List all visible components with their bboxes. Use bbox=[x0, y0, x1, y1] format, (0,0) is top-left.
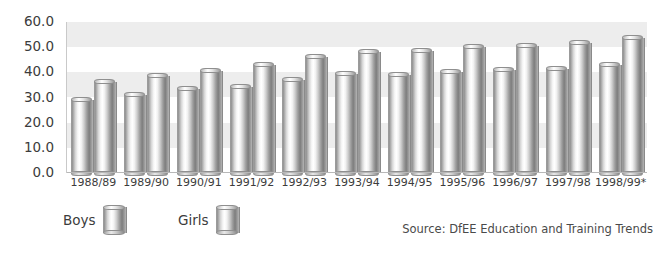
bar-boys bbox=[388, 75, 411, 173]
cylinder-top-ellipse bbox=[622, 35, 643, 40]
cylinder-top-ellipse bbox=[230, 84, 251, 89]
x-tick-label: 1991/92 bbox=[225, 176, 278, 190]
bar-girls bbox=[200, 71, 223, 173]
bar-boys bbox=[546, 69, 569, 173]
bar-boys bbox=[282, 80, 305, 173]
bar-group bbox=[278, 22, 331, 173]
y-tick-label: 0.0 bbox=[33, 166, 54, 180]
cylinder-top-ellipse bbox=[388, 72, 409, 77]
bar-boys bbox=[177, 89, 200, 173]
cylinder-top-ellipse bbox=[71, 97, 92, 102]
x-tick-label: 1992/93 bbox=[278, 176, 331, 190]
bar-girls bbox=[463, 47, 486, 173]
cylinder-swatch-boys bbox=[103, 207, 127, 233]
plot-area bbox=[67, 22, 647, 173]
bar-girls bbox=[569, 43, 592, 173]
cylinder-top-ellipse bbox=[599, 62, 620, 67]
bar-group bbox=[383, 22, 436, 173]
x-tick-label: 1988/89 bbox=[67, 176, 120, 190]
cylinder-top-ellipse bbox=[569, 40, 590, 45]
bar-chart-figure: 60.050.040.030.020.010.00.0 1988/891989/… bbox=[0, 0, 667, 257]
cylinder-top-ellipse bbox=[177, 86, 198, 91]
bar-girls bbox=[411, 51, 434, 173]
bar-girls bbox=[94, 82, 117, 173]
cylinder-top-ellipse bbox=[305, 54, 326, 59]
cylinder-swatch-girls bbox=[216, 207, 240, 233]
y-tick-label: 10.0 bbox=[24, 141, 54, 155]
cylinder-top-ellipse bbox=[124, 92, 145, 97]
bar-group bbox=[331, 22, 384, 173]
cylinder-top-ellipse bbox=[216, 205, 238, 210]
legend-label: Girls bbox=[178, 212, 209, 228]
bar-group bbox=[172, 22, 225, 173]
x-axis-tick-labels: 1988/891989/901990/911991/921992/931993/… bbox=[67, 176, 647, 194]
y-tick-label: 30.0 bbox=[24, 91, 54, 105]
bar-boys bbox=[124, 95, 147, 173]
y-tick-label: 40.0 bbox=[24, 65, 54, 79]
bar-boys bbox=[71, 100, 94, 173]
bar-group bbox=[542, 22, 595, 173]
bar-group bbox=[489, 22, 542, 173]
bar-boys bbox=[230, 87, 253, 173]
bar-boys bbox=[599, 65, 622, 173]
bar-boys bbox=[493, 70, 516, 173]
cylinder-top-ellipse bbox=[358, 49, 379, 54]
bar-girls bbox=[622, 38, 645, 173]
bar-boys bbox=[335, 74, 358, 173]
y-axis: 60.050.040.030.020.010.00.0 bbox=[0, 0, 58, 180]
cylinder-top-ellipse bbox=[516, 43, 537, 48]
x-tick-label: 1989/90 bbox=[120, 176, 173, 190]
cylinder-top-ellipse bbox=[253, 62, 274, 67]
bar-group bbox=[67, 22, 120, 173]
x-tick-label: 1996/97 bbox=[489, 176, 542, 190]
x-tick-label: 1997/98 bbox=[542, 176, 595, 190]
y-tick-label: 20.0 bbox=[24, 116, 54, 130]
cylinder-top-ellipse bbox=[546, 66, 567, 71]
bar-group bbox=[594, 22, 647, 173]
cylinder-top-ellipse bbox=[147, 73, 168, 78]
cylinder-top-ellipse bbox=[200, 68, 221, 73]
cylinder-top-ellipse bbox=[335, 71, 356, 76]
y-axis-line bbox=[66, 22, 67, 173]
y-tick-label: 60.0 bbox=[24, 15, 54, 29]
x-tick-label: 1993/94 bbox=[331, 176, 384, 190]
bar-group bbox=[225, 22, 278, 173]
bar-girls bbox=[147, 76, 170, 173]
bar-group bbox=[120, 22, 173, 173]
x-tick-label: 1990/91 bbox=[172, 176, 225, 190]
x-tick-label: 1998/99* bbox=[594, 176, 647, 190]
source-note: Source: DfEE Education and Training Tren… bbox=[402, 222, 653, 236]
cylinder-top-ellipse bbox=[94, 79, 115, 84]
x-tick-label: 1995/96 bbox=[436, 176, 489, 190]
cylinder-top-ellipse bbox=[411, 48, 432, 53]
x-axis-baseline bbox=[67, 172, 647, 173]
legend-label: Boys bbox=[63, 212, 96, 228]
bar-group bbox=[436, 22, 489, 173]
cylinder-bottom-ellipse bbox=[216, 230, 238, 235]
cylinder-top-ellipse bbox=[463, 44, 484, 49]
bar-girls bbox=[358, 52, 381, 173]
bar-boys bbox=[440, 72, 463, 173]
x-tick-label: 1994/95 bbox=[383, 176, 436, 190]
cylinder-top-ellipse bbox=[493, 67, 514, 72]
cylinder-top-ellipse bbox=[440, 69, 461, 74]
bar-girls bbox=[516, 46, 539, 173]
legend-item-boys: Boys bbox=[63, 207, 127, 233]
cylinder-top-ellipse bbox=[103, 205, 125, 210]
bar-girls bbox=[253, 65, 276, 173]
cylinder-top-ellipse bbox=[282, 77, 303, 82]
y-tick-label: 50.0 bbox=[24, 40, 54, 54]
cylinder-bottom-ellipse bbox=[103, 230, 125, 235]
legend-item-girls: Girls bbox=[178, 207, 240, 233]
bar-girls bbox=[305, 57, 328, 173]
